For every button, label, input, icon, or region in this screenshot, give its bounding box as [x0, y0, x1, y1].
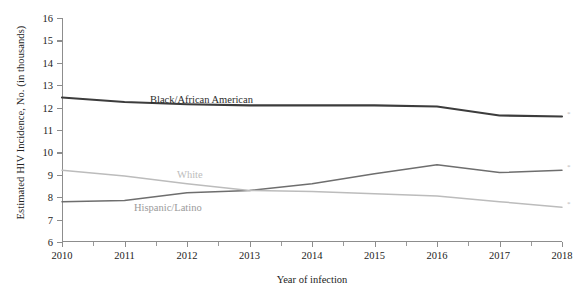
x-tick-minor-2015 [406, 242, 407, 246]
end-marker-black-african-american: * [567, 110, 571, 118]
x-tick-minor-2011 [156, 242, 157, 246]
end-marker-hispanic-latino: * [567, 163, 571, 171]
x-tick-2015 [375, 242, 376, 247]
x-tick-label-2012: 2012 [165, 250, 209, 261]
x-tick-minor-2013 [281, 242, 282, 246]
x-tick-minor-2012 [218, 242, 219, 246]
end-marker-white: * [567, 200, 571, 208]
y-tick-label-6: 6 [23, 237, 53, 248]
series-line-hispanic-latino [62, 165, 562, 202]
y-tick-label-11: 11 [23, 125, 53, 136]
x-tick-2010 [62, 242, 63, 247]
x-tick-2014 [312, 242, 313, 247]
x-tick-label-2015: 2015 [353, 250, 397, 261]
y-tick-label-13: 13 [23, 80, 53, 91]
y-tick-label-8: 8 [23, 192, 53, 203]
y-tick-label-16: 16 [23, 13, 53, 24]
y-tick-label-15: 15 [23, 35, 53, 46]
x-tick-2016 [437, 242, 438, 247]
x-tick-label-2016: 2016 [415, 250, 459, 261]
x-tick-2011 [125, 242, 126, 247]
x-tick-label-2014: 2014 [290, 250, 334, 261]
x-tick-label-2013: 2013 [228, 250, 272, 261]
x-tick-label-2018: 2018 [540, 250, 577, 261]
series-line-black-african-american [62, 98, 562, 117]
x-tick-minor-2017 [531, 242, 532, 246]
x-tick-2017 [500, 242, 501, 247]
x-tick-label-2010: 2010 [40, 250, 84, 261]
x-tick-minor-2010 [93, 242, 94, 246]
x-axis-title: Year of infection [62, 274, 562, 285]
x-tick-2013 [250, 242, 251, 247]
plot-area: 161514131211109876 201020112012201320142… [62, 18, 562, 242]
series-label-hispanic-latino: Hispanic/Latino [134, 202, 202, 213]
y-tick-label-10: 10 [23, 147, 53, 158]
y-tick-label-14: 14 [23, 57, 53, 68]
x-tick-label-2011: 2011 [103, 250, 147, 261]
x-tick-2012 [187, 242, 188, 247]
series-label-white: White [177, 169, 203, 180]
x-tick-2018 [562, 242, 563, 247]
x-tick-minor-2014 [343, 242, 344, 246]
y-tick-label-12: 12 [23, 102, 53, 113]
y-tick-label-7: 7 [23, 214, 53, 225]
x-tick-minor-2016 [468, 242, 469, 246]
hiv-incidence-line-chart: Estimated HIV Incidence, No. (in thousan… [0, 0, 577, 289]
x-tick-label-2017: 2017 [478, 250, 522, 261]
series-label-black-african-american: Black/African American [150, 94, 253, 105]
y-tick-label-9: 9 [23, 169, 53, 180]
